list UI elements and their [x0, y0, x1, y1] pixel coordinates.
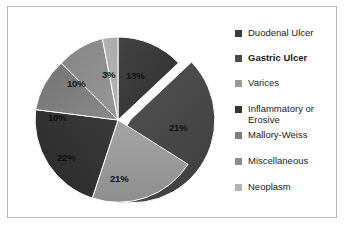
legend-item-label: Inflammatory or Erosive	[248, 103, 314, 125]
slice-label-gastric-ulcer: 21%	[169, 122, 187, 133]
legend-item-label: Duodenal Ulcer	[248, 27, 313, 38]
legend-swatch-icon	[235, 132, 242, 139]
legend-item-label: Miscellaneous	[248, 155, 308, 166]
slice-label-neoplasm: 3%	[102, 69, 115, 80]
legend-item-inflammatory-erosive[interactable]: Inflammatory or Erosive	[235, 103, 314, 125]
legend-swatch-icon	[235, 184, 242, 191]
pie-chart-plot: 13% 21% 21% 22% 10% 10% 3%	[22, 21, 222, 217]
slice-label-miscellaneous: 10%	[67, 78, 85, 89]
legend-item-miscellaneous[interactable]: Miscellaneous	[235, 155, 308, 166]
legend-item-duodenal-ulcer[interactable]: Duodenal Ulcer	[235, 27, 313, 38]
legend-swatch-icon	[235, 80, 242, 87]
legend-item-varices[interactable]: Varices	[235, 77, 279, 88]
chart-screenshot: 13% 21% 21% 22% 10% 10% 3% Duodenal Ulce…	[0, 0, 345, 225]
legend-item-label: Mallory-Weiss	[248, 129, 307, 140]
legend-item-neoplasm[interactable]: Neoplasm	[235, 181, 291, 192]
legend-item-label: Varices	[248, 77, 279, 88]
legend-item-gastric-ulcer[interactable]: Gastric Ulcer	[235, 52, 307, 63]
legend-item-label: Gastric Ulcer	[248, 52, 307, 63]
chart-frame: 13% 21% 21% 22% 10% 10% 3% Duodenal Ulce…	[7, 6, 337, 218]
chart-legend: Duodenal Ulcer Gastric Ulcer Varices Inf…	[235, 21, 341, 217]
legend-swatch-icon	[235, 55, 242, 62]
legend-swatch-icon	[235, 158, 242, 165]
slice-label-duodenal-ulcer: 13%	[126, 70, 144, 81]
slice-label-mallory-weiss: 10%	[48, 112, 66, 123]
legend-item-mallory-weiss[interactable]: Mallory-Weiss	[235, 129, 307, 140]
legend-swatch-icon	[235, 30, 242, 37]
legend-swatch-icon	[235, 106, 242, 113]
legend-item-label: Neoplasm	[248, 181, 291, 192]
slice-label-varices: 21%	[110, 173, 128, 184]
slice-label-inflammatory-erosive: 22%	[57, 152, 75, 163]
